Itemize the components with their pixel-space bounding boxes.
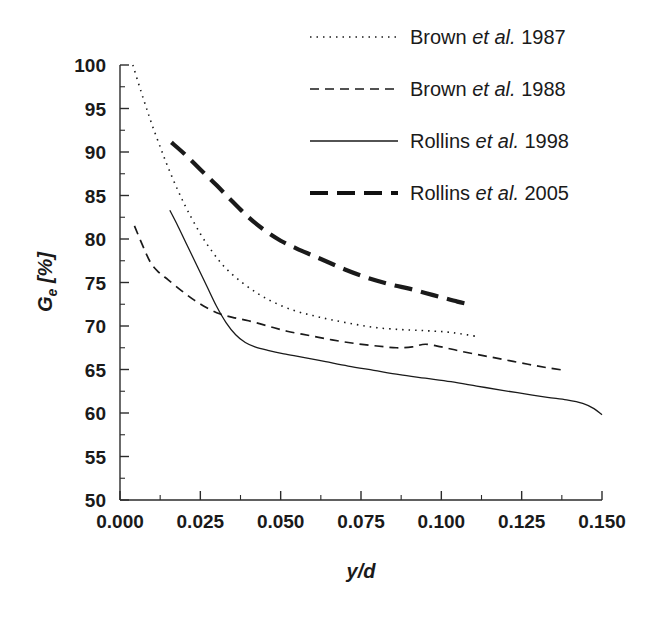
y-tick-label: 70 — [85, 316, 106, 337]
y-tick-label: 65 — [85, 360, 107, 381]
legend-entry[interactable]: Rollins et al. 2005 — [310, 182, 569, 204]
x-tick-label: 0.075 — [337, 511, 385, 532]
y-axis-title-subscript: e — [44, 288, 60, 296]
x-tick-label: 0.125 — [498, 511, 546, 532]
y-tick-label: 95 — [85, 99, 107, 120]
y-tick-label: 50 — [85, 490, 106, 511]
y-axis-ticks — [120, 65, 129, 500]
x-axis-ticks — [120, 491, 602, 500]
series-line-thick-dashed — [171, 142, 468, 304]
x-tick-label: 0.000 — [96, 511, 144, 532]
x-tick-label: 0.050 — [257, 511, 305, 532]
svg-text:Ge [%]: Ge [%] — [34, 251, 60, 312]
series-line-dashed — [134, 226, 565, 370]
y-axis-tick-labels: 50556065707580859095100 — [74, 55, 106, 511]
y-tick-label: 100 — [74, 55, 106, 76]
chart-legend: Brown et al. 1987Brown et al. 1988Rollin… — [310, 26, 569, 204]
data-series-group — [133, 65, 602, 415]
legend-label: Brown et al. 1987 — [410, 26, 566, 48]
x-tick-label: 0.150 — [578, 511, 626, 532]
y-tick-label: 55 — [85, 447, 107, 468]
x-tick-label: 0.025 — [177, 511, 225, 532]
figure-root: 50556065707580859095100 0.0000.0250.0500… — [0, 0, 666, 620]
legend-entry[interactable]: Brown et al. 1988 — [310, 78, 566, 100]
x-axis-title: y/d — [346, 560, 377, 582]
y-tick-label: 90 — [85, 142, 106, 163]
y-axis-title: Ge [%] — [34, 251, 60, 312]
y-axis-title-symbol: G — [34, 296, 56, 312]
legend-label: Brown et al. 1988 — [410, 78, 566, 100]
legend-label: Rollins et al. 2005 — [410, 182, 569, 204]
legend-label: Rollins et al. 1998 — [410, 130, 569, 152]
x-tick-label: 0.100 — [418, 511, 466, 532]
x-axis-tick-labels: 0.0000.0250.0500.0750.1000.1250.150 — [96, 511, 626, 532]
y-axis-title-unit: [%] — [34, 251, 56, 289]
series-line-solid — [170, 210, 602, 414]
x-axis-title-text: y/d — [346, 560, 377, 582]
y-tick-label: 75 — [85, 273, 107, 294]
y-tick-label: 85 — [85, 186, 107, 207]
legend-entry[interactable]: Brown et al. 1987 — [310, 26, 566, 48]
y-tick-label: 60 — [85, 403, 106, 424]
legend-entry[interactable]: Rollins et al. 1998 — [310, 130, 569, 152]
y-tick-label: 80 — [85, 229, 106, 250]
chart-canvas: 50556065707580859095100 0.0000.0250.0500… — [0, 0, 666, 620]
